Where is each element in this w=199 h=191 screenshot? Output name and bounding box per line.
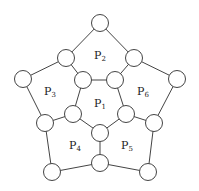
node-n9 [37, 115, 54, 132]
node-n13 [44, 164, 61, 181]
node-n6 [169, 71, 186, 88]
region-label-p5: P5 [121, 139, 133, 153]
node-n14 [140, 164, 157, 181]
node-n7 [65, 106, 82, 123]
node-n5 [15, 71, 32, 88]
pentagon-polygon-graph: P1P2P3P4P5P6 [0, 0, 199, 191]
node-n0 [92, 15, 109, 32]
node-n10 [146, 115, 163, 132]
region-label-p3: P3 [44, 85, 56, 99]
node-n8 [118, 106, 135, 123]
node-n1 [58, 50, 75, 67]
region-label-p1: P1 [94, 97, 106, 111]
node-n4 [107, 72, 124, 89]
region-label-p2: P2 [94, 49, 106, 63]
node-n3 [75, 72, 92, 89]
node-n12 [92, 155, 109, 172]
region-label-p6: P6 [137, 85, 149, 99]
node-n2 [126, 50, 143, 67]
node-n11 [92, 125, 109, 142]
region-label-p4: P4 [69, 139, 81, 153]
